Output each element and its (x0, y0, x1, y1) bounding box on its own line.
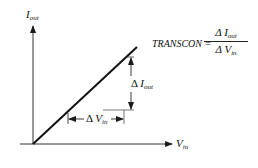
equation-numerator: Δ Iout (204, 26, 248, 42)
x-axis-label-main: V (176, 137, 183, 149)
y-axis-label-sub: out (30, 14, 39, 22)
y-axis-label: Iout (26, 8, 39, 22)
delta-symbol: Δ (131, 77, 137, 89)
delta-iout-label: Δ Iout (131, 77, 153, 91)
delta-iout-label-sub: out (144, 83, 153, 91)
transfer-line (33, 47, 137, 144)
x-axis-label: Vin (176, 137, 188, 151)
x-axis-label-sub: in (183, 143, 188, 151)
delta-vin-label-main: V (95, 112, 102, 124)
numerator-text: Δ I (215, 26, 228, 38)
equation-denominator: Δ Vin (204, 42, 248, 57)
transconductance-diagram: Iout Vin Δ Iout Δ Vin TRANSCON = Δ Iout … (0, 0, 258, 168)
equation-lhs: TRANSCON = (152, 38, 211, 49)
equation-fraction: Δ Iout Δ Vin (204, 26, 248, 57)
denominator-sub: in (231, 49, 236, 57)
denominator-text: Δ V (215, 43, 231, 55)
delta-symbol: Δ (86, 112, 92, 124)
delta-vin-label: Δ Vin (86, 112, 107, 126)
delta-vin-label-sub: in (102, 118, 107, 126)
numerator-sub: out (228, 32, 237, 40)
